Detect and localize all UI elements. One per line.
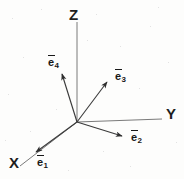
- vector-label-e2-subscript: 2: [137, 136, 141, 145]
- vector-label-e1-subscript: 1: [43, 161, 47, 170]
- vector-label-e3-subscript: 3: [121, 75, 125, 84]
- vector-arrow-e2: [77, 122, 122, 136]
- axis-label-z: Z: [69, 7, 78, 22]
- vector-label-e4-subscript: 4: [54, 61, 58, 70]
- vector-diagram: X Y Z e1 e2 e3 e4: [0, 0, 184, 179]
- vector-label-e2-base: e: [131, 132, 137, 143]
- vector-label-e4-base: e: [48, 57, 54, 68]
- axis-label-x: X: [9, 155, 19, 170]
- basis-vectors: [36, 74, 122, 152]
- diagram-canvas: [0, 0, 184, 179]
- vector-label-e3: e3: [115, 71, 126, 84]
- axis-label-y: Y: [166, 106, 176, 121]
- vector-label-e1: e1: [37, 157, 48, 170]
- vector-label-e2: e2: [131, 132, 142, 145]
- vector-label-e1-base: e: [37, 157, 43, 168]
- vector-arrow-e1: [36, 122, 77, 152]
- vector-label-e3-base: e: [115, 71, 121, 82]
- vector-label-e4: e4: [48, 57, 59, 70]
- vector-arrow-e3: [77, 82, 107, 122]
- axis-line-y: [77, 119, 162, 122]
- vector-arrow-e4: [62, 74, 77, 122]
